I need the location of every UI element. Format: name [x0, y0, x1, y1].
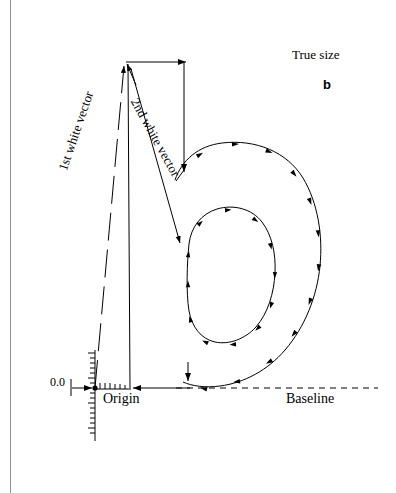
first-white-vector: [95, 66, 124, 388]
zero-leader: [71, 379, 92, 396]
origin-label: Origin: [103, 392, 140, 406]
glyph-outer-contour: [175, 142, 321, 386]
figure-part-label-b: b: [323, 78, 331, 91]
figure-canvas: True size b Origin Baseline 0.0 1st whit…: [0, 0, 396, 493]
inner-contour-direction-arrows: [186, 208, 277, 347]
outer-contour-direction-arrows: [196, 142, 321, 392]
true-size-caption: True size: [292, 48, 340, 61]
glyph-diagram-svg: [0, 0, 396, 493]
ruler-vertical: [88, 350, 95, 441]
origin-point-marker: [92, 385, 97, 390]
baseline-label: Baseline: [286, 392, 334, 406]
ruler-horizontal: [96, 383, 131, 389]
glyph-inner-contour: [187, 207, 275, 343]
zero-value-label: 0.0: [50, 376, 65, 388]
glyph-stem: [128, 64, 130, 388]
